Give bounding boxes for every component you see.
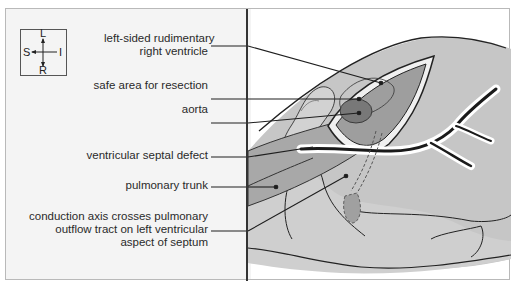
- figure-frame: L S I R left-sided rudimentary right ven…: [5, 8, 510, 280]
- heart-illustration: [6, 9, 511, 281]
